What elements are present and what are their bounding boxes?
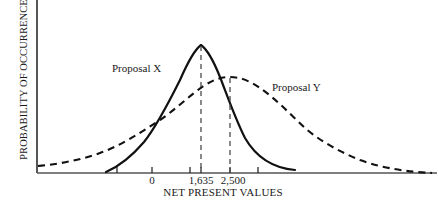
x-tick-label-2500: 2,500 bbox=[212, 174, 254, 186]
series-label-proposal-y: Proposal Y bbox=[272, 81, 321, 93]
series-label-proposal-x: Proposal X bbox=[112, 62, 161, 74]
series-proposal-y-curve bbox=[38, 77, 432, 173]
x-tick-label-zero: 0 bbox=[144, 174, 160, 186]
x-axis-title: NET PRESENT VALUES bbox=[108, 186, 338, 198]
chart-figure: PROBABILITY OF OCCURRENCE 0 1,635 2,500 … bbox=[0, 0, 438, 210]
y-axis-title: PROBABILITY OF OCCURRENCE bbox=[18, 0, 29, 170]
